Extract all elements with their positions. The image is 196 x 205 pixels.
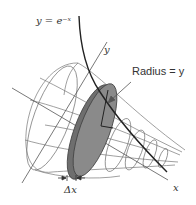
x-axis-label: x	[173, 183, 179, 193]
delta-x-label: Δx	[64, 185, 77, 195]
curve-label: y = e⁻ˣ	[36, 16, 71, 26]
radius-label: Radius = y	[132, 66, 184, 77]
solid-of-revolution-diagram: y = e⁻ˣ y Radius = y Δx x	[0, 0, 196, 205]
diagram-canvas	[0, 0, 196, 205]
y-axis-label: y	[104, 45, 110, 55]
